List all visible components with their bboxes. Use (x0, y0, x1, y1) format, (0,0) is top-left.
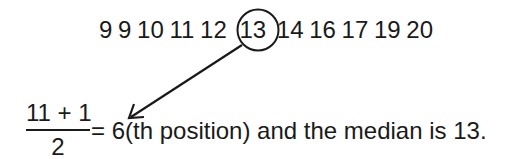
fraction-bar (26, 129, 90, 131)
median-result-text: = 6(th position) and the median is 13. (91, 116, 487, 146)
median-circle (238, 10, 279, 51)
fraction-numerator: 11 + 1 (26, 100, 90, 126)
arrow-icon (129, 45, 242, 118)
position-fraction: 11 + 1 2 (26, 100, 90, 159)
fraction-denominator: 2 (26, 134, 90, 159)
